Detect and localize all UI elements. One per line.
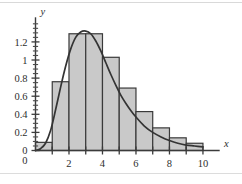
x-axis-label: x (223, 138, 229, 149)
x-tick-label: 4 (100, 158, 106, 169)
y-tick-label: 0.2 (14, 127, 27, 138)
y-axis-label: y (40, 6, 46, 17)
x-tick-label: 2 (66, 158, 71, 169)
histogram-bar (86, 34, 103, 151)
y-tick-label: 1 (22, 55, 27, 66)
histogram-bar (102, 57, 119, 150)
x-tick-label: 8 (167, 158, 172, 169)
y-tick-label: 1.2 (14, 37, 27, 48)
x-tick-label: 6 (133, 158, 138, 169)
origin-label: 0 (22, 155, 27, 166)
x-tick-label: 10 (198, 158, 209, 169)
y-axis-tick-labels: 00.20.40.60.811.2 (14, 37, 28, 157)
histogram-figure: 00.20.40.60.811.2 2468100 y x (0, 0, 242, 184)
y-tick-label: 0.6 (14, 91, 27, 102)
plot-area: 00.20.40.60.811.2 2468100 y x (0, 0, 242, 184)
y-tick-label: 0.8 (14, 73, 27, 84)
y-tick-label: 0.4 (14, 109, 28, 120)
histogram-bar (69, 34, 86, 151)
x-axis-tick-labels: 2468100 (22, 155, 208, 169)
